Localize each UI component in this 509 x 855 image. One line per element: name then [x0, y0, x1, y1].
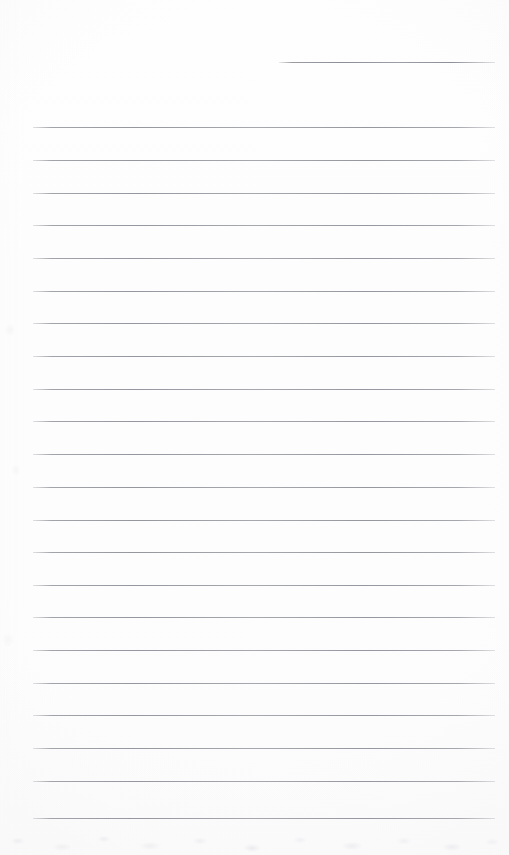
partial-rule-top-right: [279, 62, 495, 63]
rule: [33, 421, 495, 422]
rule: [33, 291, 495, 292]
rule: [33, 389, 495, 390]
rule: [33, 715, 495, 716]
scan-artifact-left-margin: [0, 0, 26, 855]
rule: [33, 748, 495, 749]
scan-artifact-right-margin: [483, 0, 509, 855]
rule: [33, 818, 495, 819]
paper-texture: [0, 0, 509, 855]
rule: [33, 650, 495, 651]
rule: [33, 552, 495, 553]
rule: [33, 356, 495, 357]
rule: [33, 160, 495, 161]
rule: [33, 520, 495, 521]
rule: [33, 454, 495, 455]
rule: [33, 781, 495, 782]
rule: [33, 617, 495, 618]
scanned-page: [0, 0, 509, 855]
rule: [33, 193, 495, 194]
rule: [33, 127, 495, 128]
rule: [33, 225, 495, 226]
scan-artifact-bottom-edge: [0, 821, 509, 855]
rule: [33, 323, 495, 324]
rule: [33, 258, 495, 259]
rule: [33, 585, 495, 586]
rule: [33, 487, 495, 488]
rule: [33, 683, 495, 684]
